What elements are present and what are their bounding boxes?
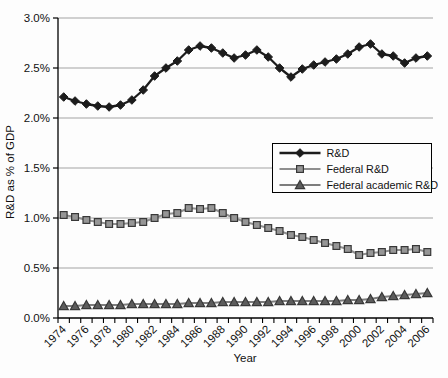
square-marker: [106, 221, 113, 228]
y-tick-label: 1.5%: [24, 162, 50, 174]
y-tick-label: 0.5%: [24, 262, 50, 274]
square-marker: [253, 222, 260, 229]
square-marker: [197, 206, 204, 213]
diamond-marker: [207, 44, 216, 53]
square-marker: [276, 228, 283, 235]
diamond-marker: [218, 49, 227, 58]
square-marker: [344, 246, 351, 253]
x-tick-label: 1996: [292, 323, 319, 350]
x-tick-label: 1992: [246, 323, 273, 350]
square-marker: [219, 210, 226, 217]
diamond-marker: [241, 51, 250, 60]
square-marker: [413, 246, 420, 253]
square-marker: [208, 205, 215, 212]
x-tick-label: 1982: [132, 323, 159, 350]
square-marker: [356, 252, 363, 259]
x-axis-title: Year: [233, 352, 256, 364]
x-tick-label: 2000: [337, 323, 364, 350]
legend: R&DFederal R&DFederal academic R&D: [273, 144, 439, 193]
series-r-d: [59, 40, 431, 112]
y-tick-label: 2.0%: [24, 112, 50, 124]
diamond-marker: [59, 93, 68, 102]
x-tick-label: 1984: [155, 323, 182, 350]
diamond-marker: [196, 42, 205, 51]
diamond-marker: [412, 54, 421, 63]
x-tick-label: 1994: [269, 323, 296, 350]
legend-label: Federal academic R&D: [327, 179, 439, 191]
diamond-marker: [321, 58, 330, 67]
square-marker: [401, 247, 408, 254]
square-marker: [297, 166, 304, 173]
square-marker: [424, 249, 431, 256]
square-marker: [333, 243, 340, 250]
x-tick-label: 1988: [201, 323, 228, 350]
legend-label: R&D: [327, 147, 350, 159]
square-marker: [231, 215, 238, 222]
square-marker: [151, 215, 158, 222]
x-tick-labels: 1974197619781980198219841986198819901992…: [42, 323, 432, 350]
x-tick-label: 1978: [87, 323, 114, 350]
diamond-marker: [116, 101, 125, 110]
square-marker: [242, 219, 249, 226]
diamond-marker: [423, 52, 432, 61]
diamond-marker: [332, 55, 341, 64]
x-tick-label: 1986: [178, 323, 205, 350]
y-tick-label: 3.0%: [24, 12, 50, 24]
square-marker: [322, 240, 329, 247]
y-tick-labels: 0.0%0.5%1.0%1.5%2.0%2.5%3.0%: [24, 12, 50, 324]
diamond-marker: [93, 102, 102, 111]
square-marker: [94, 219, 101, 226]
x-tick-label: 2006: [405, 323, 432, 350]
square-marker: [288, 232, 295, 239]
square-marker: [128, 220, 135, 227]
square-marker: [390, 247, 397, 254]
square-marker: [378, 249, 385, 256]
square-marker: [83, 217, 90, 224]
square-marker: [72, 214, 79, 221]
square-marker: [265, 225, 272, 232]
square-marker: [299, 234, 306, 241]
x-tick-label: 1980: [110, 323, 137, 350]
x-tick-label: 2004: [382, 323, 409, 350]
square-marker: [367, 250, 374, 257]
square-marker: [140, 219, 147, 226]
rd-gdp-line-chart: 0.0%0.5%1.0%1.5%2.0%2.5%3.0%197419761978…: [0, 0, 448, 378]
y-axis-title: R&D as % of GDP: [4, 125, 16, 219]
square-marker: [117, 221, 124, 228]
square-marker: [310, 237, 317, 244]
diamond-marker: [82, 100, 91, 109]
series-federal-r-d: [60, 205, 430, 259]
x-tick-label: 1990: [223, 323, 250, 350]
square-marker: [163, 211, 170, 218]
diamond-marker: [230, 54, 239, 63]
y-tick-label: 0.0%: [24, 312, 50, 324]
y-tick-label: 1.0%: [24, 212, 50, 224]
x-tick-label: 2002: [360, 323, 387, 350]
square-marker: [60, 212, 67, 219]
legend-label: Federal R&D: [327, 163, 390, 175]
diamond-marker: [71, 97, 80, 106]
x-tick-label: 1976: [64, 323, 91, 350]
diamond-marker: [105, 103, 114, 112]
x-tick-label: 1998: [314, 323, 341, 350]
chart-canvas: 0.0%0.5%1.0%1.5%2.0%2.5%3.0%197419761978…: [0, 0, 448, 378]
square-marker: [174, 210, 181, 217]
y-tick-label: 2.5%: [24, 62, 50, 74]
series-line: [64, 208, 428, 255]
x-tick-label: 1974: [42, 323, 69, 350]
series-federal-academic-r-d: [59, 289, 432, 310]
square-marker: [185, 205, 192, 212]
